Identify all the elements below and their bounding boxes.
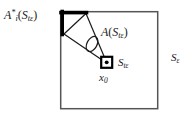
- label-a-cone-arg-subscript: tε: [118, 31, 123, 40]
- cone-ray-lower: [64, 34, 105, 62]
- label-s-epsilon: Sε: [171, 52, 179, 63]
- label-a-i-star-of-s-t-epsilon: A*i(Stε): [4, 9, 37, 21]
- label-a-star-subscript: i: [15, 14, 17, 23]
- label-a-cone-paren-close: ): [124, 25, 128, 39]
- cone-construction-diagram: A*i(Stε) A(Stε) Stε x0 Sε: [0, 0, 192, 119]
- cross-section-ellipse: [84, 34, 101, 53]
- label-a-star-arg-subscript: tε: [28, 14, 33, 23]
- cap-chord: [64, 13, 87, 34]
- apex-point-x0: [105, 60, 109, 64]
- label-s-teps-subscript: tε: [124, 61, 129, 70]
- label-s-eps-base: S: [171, 51, 177, 63]
- label-a-star-paren-close: ): [33, 8, 37, 22]
- label-s-teps-base: S: [118, 56, 124, 68]
- label-x-zero: x0: [99, 72, 108, 83]
- label-a-of-s-t-epsilon: A(Stε): [101, 26, 128, 38]
- label-x0-subscript: 0: [104, 76, 108, 85]
- label-a-star-arg-base: S: [22, 8, 28, 22]
- label-s-t-epsilon: Stε: [118, 57, 129, 68]
